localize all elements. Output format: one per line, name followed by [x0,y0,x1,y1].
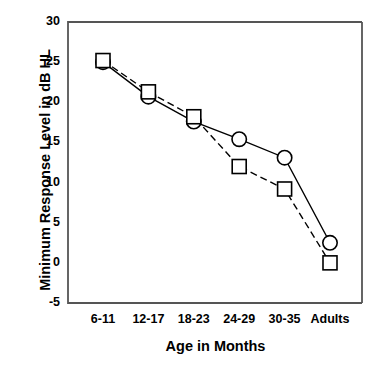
data-point-circle [323,236,337,250]
y-axis-title: Minimum Response Level in dB HL [37,40,53,300]
series-line-circle [103,62,330,243]
axis-spines [68,22,362,303]
chart-figure: -5051015202530 6-1112-1718-2324-2930-35A… [0,0,377,368]
data-point-square [232,160,246,174]
series-line-square [103,61,330,263]
x-axis-title: Age in Months [68,338,363,354]
data-point-square [96,54,110,68]
series-square [96,54,337,270]
data-point-circle [277,150,291,164]
data-point-square [323,256,337,270]
data-point-square [278,182,292,196]
y-tick-label: 30 [16,14,60,28]
data-series-layer [96,54,337,270]
series-circle [96,55,337,250]
data-point-circle [232,132,246,146]
data-point-square [187,110,201,124]
data-point-square [141,85,155,99]
axis-frame [68,22,362,303]
x-tick-label: Adults [295,312,365,326]
